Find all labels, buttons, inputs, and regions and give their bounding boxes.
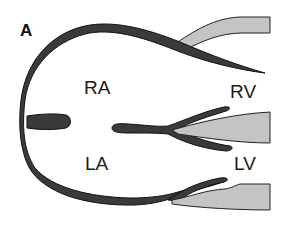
panel-label: A (20, 21, 32, 40)
lower-ventricular-wall (172, 184, 270, 210)
interatrial-septum (27, 114, 71, 130)
heart-diagram: A RA RV LA LV (0, 0, 288, 226)
chamber-label-rv: RV (230, 81, 256, 102)
heart-diagram-svg: A RA RV LA LV (0, 0, 288, 226)
chamber-label-la: LA (85, 153, 109, 174)
chamber-label-lv: LV (234, 153, 256, 174)
chamber-label-ra: RA (84, 77, 111, 98)
